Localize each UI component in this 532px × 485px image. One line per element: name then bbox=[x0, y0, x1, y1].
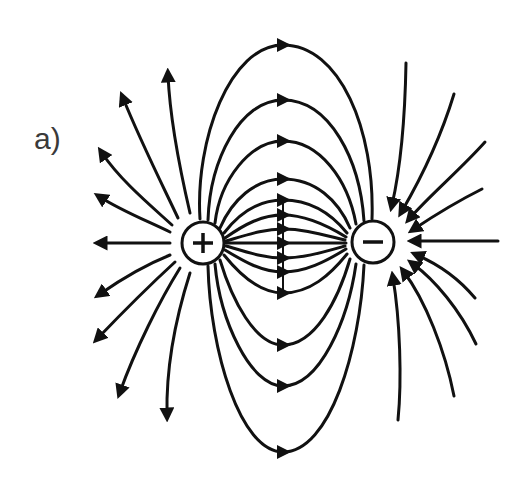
field-line bbox=[402, 94, 454, 211]
outward-field-lines bbox=[98, 75, 190, 415]
field-line bbox=[98, 262, 175, 338]
field-line bbox=[167, 273, 190, 415]
field-line bbox=[404, 272, 454, 396]
field-line bbox=[123, 98, 178, 218]
field-line bbox=[417, 255, 475, 298]
field-line bbox=[392, 63, 406, 205]
panel-label: a) bbox=[34, 122, 61, 156]
inward-field-lines bbox=[392, 63, 498, 420]
field-line bbox=[168, 75, 190, 213]
field-line bbox=[215, 264, 356, 386]
positive-charge bbox=[182, 222, 224, 264]
dipole-field-diagram bbox=[0, 0, 532, 485]
field-line bbox=[102, 153, 172, 225]
field-line bbox=[220, 179, 350, 228]
field-line bbox=[215, 141, 356, 224]
field-line bbox=[414, 189, 482, 229]
field-line bbox=[208, 100, 364, 221]
connecting-field-lines bbox=[200, 45, 373, 452]
negative-charge bbox=[352, 221, 394, 263]
field-line bbox=[393, 278, 400, 420]
